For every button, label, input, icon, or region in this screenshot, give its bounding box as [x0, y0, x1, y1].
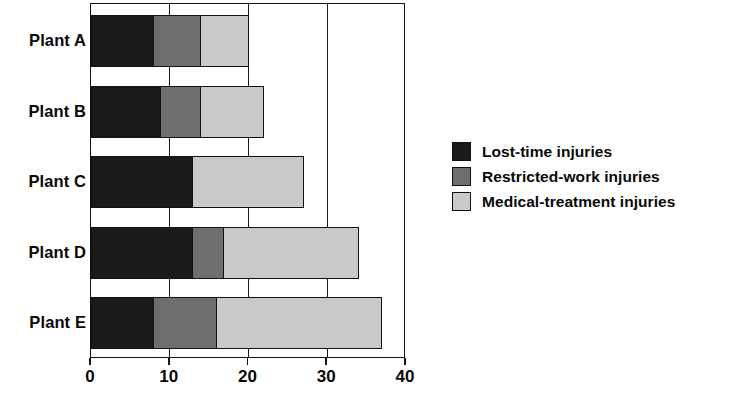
bar-segment: [200, 86, 264, 138]
stacked-bar-chart: Plant APlant BPlant CPlant DPlant E 0102…: [0, 0, 730, 411]
bar-row: [91, 86, 263, 138]
bar-segment: [91, 156, 193, 208]
category-label-plant-e: Plant E: [2, 314, 86, 331]
bar-segment: [153, 15, 202, 67]
category-label-plant-b: Plant B: [2, 103, 86, 120]
legend-label: Medical-treatment injuries: [482, 194, 675, 210]
bar-segment: [153, 297, 217, 349]
bar-row: [91, 15, 247, 67]
x-tick-label-20: 20: [218, 368, 278, 385]
bar-row: [91, 156, 302, 208]
x-tick-20: [247, 358, 249, 365]
plot-area: [90, 3, 405, 358]
category-label-plant-c: Plant C: [2, 173, 86, 190]
bar-segment: [200, 15, 249, 67]
x-tick-10: [168, 358, 170, 365]
legend-label: Lost-time injuries: [482, 144, 612, 160]
bar-row: [91, 297, 381, 349]
legend-item: Lost-time injuries: [452, 139, 728, 164]
bar-series-group: [91, 4, 404, 357]
x-axis-tick-labels: 010203040: [0, 368, 500, 394]
bar-segment: [91, 227, 193, 279]
x-tick-label-10: 10: [139, 368, 199, 385]
legend-item: Medical-treatment injuries: [452, 189, 728, 214]
bar-segment: [216, 297, 383, 349]
bar-segment: [192, 227, 225, 279]
bar-row: [91, 227, 357, 279]
category-label-plant-a: Plant A: [2, 32, 86, 49]
x-tick-label-30: 30: [296, 368, 356, 385]
bar-segment: [223, 227, 358, 279]
x-tick-0: [89, 358, 91, 365]
bar-segment: [192, 156, 304, 208]
category-label-plant-d: Plant D: [2, 244, 86, 261]
bar-segment: [91, 15, 154, 67]
legend-swatch-restricted-work: [452, 167, 471, 186]
legend-swatch-lost-time: [452, 142, 471, 161]
scan-artifact: [0, 397, 730, 411]
bar-segment: [160, 86, 201, 138]
bar-segment: [91, 86, 162, 138]
legend-swatch-medical-treatment: [452, 192, 471, 211]
x-tick-40: [404, 358, 406, 365]
y-axis-category-labels: Plant APlant BPlant CPlant DPlant E: [0, 0, 86, 411]
x-tick-30: [325, 358, 327, 365]
legend-label: Restricted-work injuries: [482, 169, 660, 185]
bar-segment: [91, 297, 154, 349]
x-tick-label-40: 40: [375, 368, 435, 385]
legend-item: Restricted-work injuries: [452, 164, 728, 189]
chart-legend: Lost-time injuriesRestricted-work injuri…: [452, 139, 728, 214]
x-tick-label-0: 0: [60, 368, 120, 385]
